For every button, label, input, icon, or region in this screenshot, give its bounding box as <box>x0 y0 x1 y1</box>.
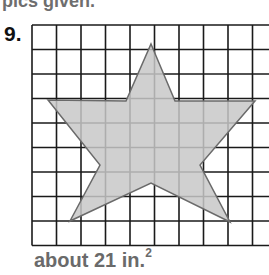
star-shape <box>48 44 255 222</box>
answer-text: about 21 in.2 <box>34 248 152 272</box>
star-grid-figure <box>0 0 269 275</box>
answer-value: about 21 in. <box>34 249 145 271</box>
answer-exponent: 2 <box>145 246 152 260</box>
